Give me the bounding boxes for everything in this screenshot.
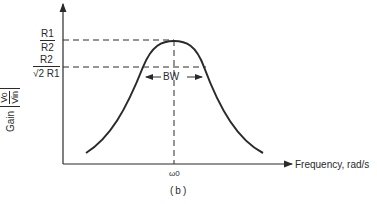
y-axis-ratio-denominator: Vin (9, 91, 20, 104)
x-axis-title: Frequency, rad/s (295, 160, 369, 170)
bandwidth-label: BW (163, 72, 179, 82)
y-axis-title: Gain Vo Vin (2, 70, 18, 150)
y-axis-gain-word: Gain (5, 111, 16, 132)
peak-gain-numerator: R1 (40, 28, 55, 40)
bandpass-response-diagram (0, 0, 377, 204)
figure-caption: (b) (170, 186, 188, 196)
y-axis-ratio: Vo Vin (0, 88, 20, 107)
half-power-numerator: R2 (33, 54, 60, 66)
half-power-gain-label: R2 √2 R1 (33, 54, 60, 79)
peak-gain-denominator: R2 (40, 40, 55, 53)
gain-response-curve (86, 41, 263, 153)
half-power-denominator: √2 R1 (33, 66, 60, 79)
y-axis-ratio-numerator: Vo (0, 92, 9, 103)
center-frequency-tick-label: ω0 (169, 170, 180, 178)
peak-gain-label: R1 R2 (40, 28, 55, 53)
